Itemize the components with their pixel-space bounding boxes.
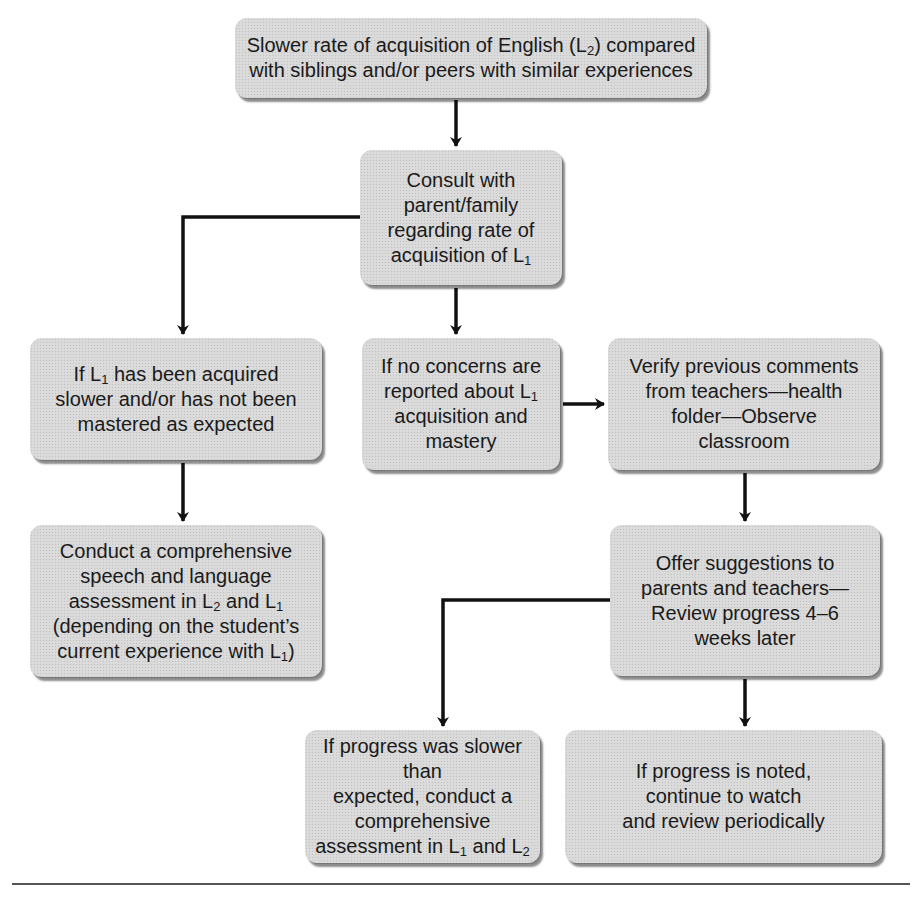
node-text-line: continue to watch — [622, 784, 824, 809]
node-text-line: Slower rate of acquisition of English (L… — [247, 33, 696, 58]
node-text-line: mastery — [381, 429, 541, 454]
node-text-line: parents and teachers— — [641, 576, 849, 601]
node-text-line: assessment in L2 and L1 — [53, 589, 300, 614]
subscript: 2 — [523, 844, 530, 859]
subscript: 1 — [276, 599, 283, 614]
arrow-consult-to-l1-slower — [183, 217, 360, 334]
node-text-line: If progress is noted, — [622, 759, 824, 784]
node-conduct-text: Conduct a comprehensivespeech and langua… — [53, 539, 300, 664]
node-text-line: parent/family — [388, 193, 535, 218]
node-start: Slower rate of acquisition of English (L… — [235, 18, 707, 98]
node-conduct: Conduct a comprehensivespeech and langua… — [30, 525, 322, 677]
node-text-line: comprehensive — [315, 809, 530, 834]
node-text-line: slower and/or has not been — [55, 387, 296, 412]
node-progress-slower-text: If progress was slower thanexpected, con… — [315, 734, 530, 859]
node-text-line: If L1 has been acquired — [55, 362, 296, 387]
node-start-text: Slower rate of acquisition of English (L… — [247, 33, 696, 83]
node-text-line: regarding rate of — [388, 218, 535, 243]
node-text-line: from teachers—health — [630, 379, 859, 404]
node-text-line: mastered as expected — [55, 412, 296, 437]
node-text-line: speech and language — [53, 564, 300, 589]
node-no-concerns: If no concerns arereported about L1acqui… — [362, 338, 560, 470]
node-text-line: reported about L1 — [381, 379, 541, 404]
subscript: 1 — [460, 844, 467, 859]
subscript: 2 — [587, 43, 594, 58]
node-text-line: If progress was slower than — [315, 734, 530, 784]
node-progress-noted: If progress is noted,continue to watchan… — [565, 730, 882, 863]
node-verify-text: Verify previous commentsfrom teachers—he… — [630, 354, 859, 454]
node-text-line: expected, conduct a — [315, 784, 530, 809]
node-text-line: current experience with L1) — [53, 639, 300, 664]
node-text-line: and review periodically — [622, 809, 824, 834]
subscript: 2 — [213, 599, 220, 614]
node-text-line: If no concerns are — [381, 354, 541, 379]
node-progress-noted-text: If progress is noted,continue to watchan… — [622, 759, 824, 834]
subscript: 1 — [101, 372, 108, 387]
node-text-line: folder—Observe — [630, 404, 859, 429]
node-offer-text: Offer suggestions toparents and teachers… — [641, 551, 849, 651]
node-offer: Offer suggestions toparents and teachers… — [610, 525, 880, 676]
bottom-rule-divider — [12, 883, 910, 885]
node-text-line: weeks later — [641, 626, 849, 651]
node-text-line: classroom — [630, 429, 859, 454]
subscript: 1 — [531, 389, 538, 404]
node-no-concerns-text: If no concerns arereported about L1acqui… — [381, 354, 541, 454]
node-text-line: assessment in L1 and L2 — [315, 834, 530, 859]
node-consult-text: Consult withparent/familyregarding rate … — [388, 168, 535, 268]
subscript: 1 — [281, 649, 288, 664]
node-text-line: Verify previous comments — [630, 354, 859, 379]
node-progress-slower: If progress was slower thanexpected, con… — [305, 730, 540, 863]
node-l1-slower: If L1 has been acquiredslower and/or has… — [30, 338, 322, 460]
node-text-line: Consult with — [388, 168, 535, 193]
flowchart-canvas: Slower rate of acquisition of English (L… — [0, 0, 912, 907]
node-text-line: Offer suggestions to — [641, 551, 849, 576]
node-text-line: Review progress 4–6 — [641, 601, 849, 626]
node-text-line: Conduct a comprehensive — [53, 539, 300, 564]
node-verify: Verify previous commentsfrom teachers—he… — [608, 338, 880, 470]
node-text-line: (depending on the student’s — [53, 614, 300, 639]
node-l1-slower-text: If L1 has been acquiredslower and/or has… — [55, 362, 296, 437]
subscript: 1 — [524, 253, 531, 268]
node-text-line: acquisition and — [381, 404, 541, 429]
node-consult: Consult withparent/familyregarding rate … — [360, 150, 562, 285]
node-text-line: with siblings and/or peers with similar … — [247, 58, 696, 83]
node-text-line: acquisition of L1 — [388, 243, 535, 268]
arrow-offer-to-progress-slower — [443, 600, 610, 726]
